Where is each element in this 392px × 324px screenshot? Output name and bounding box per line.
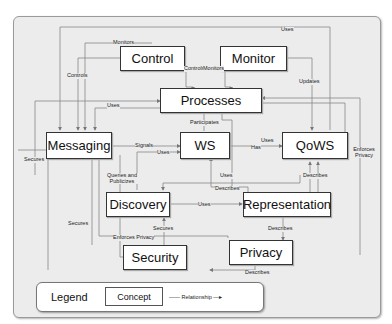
rel-label-describes-ws: Describes bbox=[215, 186, 239, 192]
concept-label: Processes bbox=[181, 93, 242, 108]
rel-label-secures-msg: Secures bbox=[68, 221, 88, 227]
rel-label-monitors-top: Monitors bbox=[113, 40, 134, 46]
concept-qows: QoWS bbox=[282, 132, 348, 159]
rel-label-uses-ws: Uses bbox=[157, 150, 170, 156]
rel-label-updates: Updates bbox=[299, 79, 320, 85]
rel-label-controls-mid: Controls bbox=[184, 66, 204, 72]
rel-label-uses-top: Uses bbox=[281, 27, 294, 33]
rel-label-uses-qows: Uses bbox=[261, 138, 274, 144]
rel-label-uses-proc: Uses bbox=[107, 103, 120, 109]
concept-label: Discovery bbox=[109, 197, 166, 212]
concept-ws: WS bbox=[180, 132, 230, 159]
concept-monitor: Monitor bbox=[220, 46, 287, 71]
concept-messaging: Messaging bbox=[46, 132, 112, 159]
legend-relationship: —— Relationship —▸ bbox=[169, 294, 222, 300]
legend-concept-box: Concept bbox=[105, 287, 163, 306]
concept-label: QoWS bbox=[296, 138, 334, 153]
concept-label: Privacy bbox=[240, 245, 283, 260]
rel-label-enforces-privacy-bottom: Enforces Privacy bbox=[113, 235, 154, 241]
legend-title: Legend bbox=[51, 291, 88, 303]
concept-label: Monitor bbox=[232, 51, 275, 66]
rel-label-describes-sec: Describes bbox=[245, 270, 269, 276]
rel-label-secures-left: Secures bbox=[24, 157, 44, 163]
rel-label-monitors-mid: Monitors bbox=[203, 66, 224, 72]
concept-label: Control bbox=[132, 51, 174, 66]
concept-label: Security bbox=[132, 250, 179, 265]
concept-control: Control bbox=[120, 46, 185, 71]
rel-label-participates: Participates bbox=[190, 120, 219, 126]
rel-label-secures-disc: Secures bbox=[153, 226, 173, 232]
concept-label: Messaging bbox=[48, 138, 111, 153]
rel-label-uses-rep: Uses bbox=[220, 173, 233, 179]
concept-label: Representation bbox=[243, 197, 331, 212]
rel-label-controls-left: Controls bbox=[67, 73, 87, 79]
rel-label-signals: Signals bbox=[135, 143, 153, 149]
concept-discovery: Discovery bbox=[106, 192, 170, 217]
legend: Legend Concept —— Relationship —▸ bbox=[36, 282, 264, 312]
concept-label: WS bbox=[195, 138, 216, 153]
concept-privacy: Privacy bbox=[229, 240, 293, 265]
rel-label-has: Has bbox=[251, 145, 261, 151]
legend-concept-label: Concept bbox=[117, 292, 151, 302]
concept-security: Security bbox=[123, 245, 187, 270]
rel-label-enforces-privacy-right: Enforces Privacy bbox=[353, 147, 375, 158]
legend-relationship-label: Relationship bbox=[182, 294, 212, 300]
rel-label-uses-disc-rep: Uses bbox=[198, 202, 211, 208]
rel-label-queries: Queries and Publicizes bbox=[106, 173, 138, 184]
concept-processes: Processes bbox=[160, 88, 262, 113]
relationship-edges bbox=[0, 0, 392, 324]
concept-representation: Representation bbox=[243, 192, 331, 217]
rel-label-describes-qows: Describes bbox=[303, 173, 327, 179]
rel-label-describes-priv: Describes bbox=[268, 226, 292, 232]
